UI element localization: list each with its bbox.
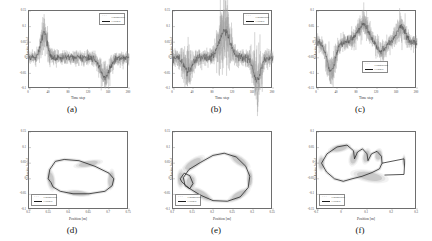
solid-line-icon (365, 68, 373, 71)
dotted-marker-icon (102, 16, 110, 19)
legend-label: Groundtruth (332, 196, 345, 199)
plot-area-f: GroundtruthLearned (316, 131, 416, 209)
y-tick-label: 0.1 (13, 145, 26, 149)
solid-line-icon (102, 20, 110, 23)
y-tick-label: -0.05 (13, 191, 26, 195)
y-tick-label: 0 (301, 160, 314, 164)
figure-container: Velocity [m/s]Time step0.150.10.050-0.05… (0, 0, 432, 241)
x-axis-label: Time step (28, 96, 128, 100)
x-tick-label: 0.65 (81, 210, 95, 214)
groundtruth-scatter (29, 14, 129, 90)
panel-b: Velocity [m/s]Time step0.150.10.050-0.05… (144, 0, 288, 121)
legend-entry-groundtruth[interactable]: Groundtruth (34, 196, 54, 200)
x-tick-label: 160 (245, 90, 259, 94)
legend-entry-groundtruth[interactable]: Groundtruth (178, 196, 198, 200)
legend-entry-groundtruth[interactable]: Groundtruth (102, 15, 122, 19)
x-axis-label: Position [m] (28, 217, 128, 221)
panel-d: Velocity [m/s]Position [m]0.150.10.050-0… (0, 121, 144, 241)
legend-label: Learned (375, 68, 384, 71)
groundtruth-scatter (317, 2, 417, 87)
legend-a[interactable]: GroundtruthLearned (99, 13, 125, 25)
solid-line-icon (178, 200, 186, 203)
plot-area-c: GroundtruthLearned (316, 10, 416, 88)
legend-entry-groundtruth[interactable]: Groundtruth (365, 63, 385, 67)
x-tick-label: 0.15 (185, 210, 199, 214)
x-tick-label: 0.35 (265, 210, 279, 214)
x-tick-label: 0 (309, 90, 323, 94)
x-tick-label: 80 (61, 90, 75, 94)
x-tick-label: 40 (185, 90, 199, 94)
x-tick-label: 0 (334, 210, 348, 214)
legend-label: Learned (44, 200, 53, 203)
x-tick-label: 40 (329, 90, 343, 94)
legend-e[interactable]: GroundtruthLearned (175, 194, 201, 206)
y-tick-label: -0.05 (301, 176, 314, 180)
learned-orbit-tail (382, 158, 405, 174)
legend-label: Groundtruth (44, 196, 57, 199)
x-axis-label: Time step (316, 96, 416, 100)
x-tick-label: 0.1 (165, 210, 179, 214)
x-tick-label: 0.7 (101, 210, 115, 214)
plot-area-a: GroundtruthLearned (28, 10, 128, 88)
x-tick-label: 120 (225, 90, 239, 94)
legend-entry-learned[interactable]: Learned (34, 200, 54, 204)
legend-label: Learned (256, 20, 265, 23)
plot-area-d: GroundtruthLearned (28, 131, 128, 209)
panel-caption-f: (f) (288, 225, 432, 235)
y-tick-label: 0 (13, 55, 26, 59)
x-tick-label: 0.1 (359, 210, 373, 214)
y-tick-label: 0.05 (301, 145, 314, 149)
panel-f: Velocity [m/s]Position [m]0.10.050-0.05-… (288, 121, 432, 241)
legend-entry-learned[interactable]: Learned (365, 67, 385, 71)
panel-caption-b: (b) (144, 104, 288, 114)
dotted-marker-icon (178, 196, 186, 199)
panel-c: Velocity [m/s]Time step0.10.050-0.05-0.1… (288, 0, 432, 121)
legend-entry-learned[interactable]: Learned (178, 200, 198, 204)
x-tick-label: 80 (205, 90, 219, 94)
y-tick-label: 0 (157, 55, 170, 59)
x-tick-label: 0.3 (245, 210, 259, 214)
x-tick-label: 0 (165, 90, 179, 94)
legend-label: Groundtruth (375, 64, 388, 67)
dotted-marker-icon (365, 64, 373, 67)
legend-label: Groundtruth (112, 16, 125, 19)
legend-entry-groundtruth[interactable]: Groundtruth (246, 15, 266, 19)
y-tick-label: 0.05 (301, 24, 314, 28)
dotted-marker-icon (246, 16, 254, 19)
legend-f[interactable]: GroundtruthLearned (319, 194, 345, 206)
x-tick-label: 200 (409, 90, 423, 94)
plot-area-b: GroundtruthLearned (172, 10, 272, 88)
legend-entry-learned[interactable]: Learned (102, 19, 122, 23)
dotted-marker-icon (34, 196, 42, 199)
x-tick-label: 0.2 (205, 210, 219, 214)
y-tick-label: 0.1 (157, 145, 170, 149)
x-tick-label: 80 (349, 90, 363, 94)
x-axis-label: Position [m] (316, 217, 416, 221)
y-tick-label: 0.1 (301, 8, 314, 12)
y-tick-label: 0.1 (13, 24, 26, 28)
legend-entry-learned[interactable]: Learned (246, 19, 266, 23)
y-tick-label: 0.15 (13, 129, 26, 133)
legend-label: Learned (112, 20, 121, 23)
x-tick-label: 200 (265, 90, 279, 94)
legend-label: Groundtruth (188, 196, 201, 199)
x-axis-label: Time step (172, 96, 272, 100)
legend-c[interactable]: GroundtruthLearned (362, 61, 388, 73)
solid-line-icon (246, 20, 254, 23)
x-tick-label: 0.55 (41, 210, 55, 214)
x-tick-label: 0.6 (61, 210, 75, 214)
x-tick-label: 120 (81, 90, 95, 94)
x-tick-label: 0.3 (409, 210, 423, 214)
legend-entry-learned[interactable]: Learned (322, 200, 342, 204)
y-tick-label: -0.1 (301, 191, 314, 195)
legend-d[interactable]: GroundtruthLearned (31, 194, 57, 206)
legend-b[interactable]: GroundtruthLearned (243, 13, 269, 25)
y-tick-label: 0.05 (13, 160, 26, 164)
legend-label: Groundtruth (256, 16, 269, 19)
y-tick-label: 0.15 (13, 8, 26, 12)
y-tick-label: -0.05 (157, 71, 170, 75)
panel-e: Velocity [m/s]Position [m]0.150.10.050-0… (144, 121, 288, 241)
y-tick-label: 0.1 (301, 129, 314, 133)
legend-entry-groundtruth[interactable]: Groundtruth (322, 196, 342, 200)
x-tick-label: 0.5 (21, 210, 35, 214)
